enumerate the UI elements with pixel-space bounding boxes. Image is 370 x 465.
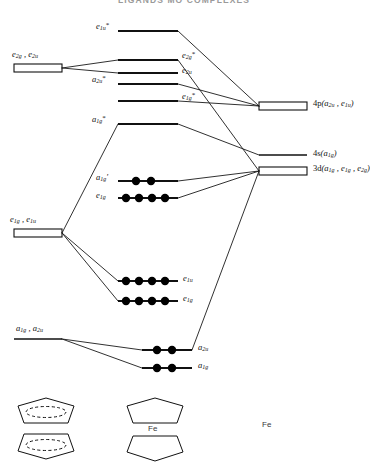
- corr-line-e1g-bond: [62, 233, 118, 301]
- electron-dot: [135, 194, 143, 202]
- label-mo-e2g-star: e2g*: [182, 51, 195, 60]
- corr-line-3d-e2gstar: [178, 60, 259, 171]
- electron-dot: [153, 346, 161, 354]
- label-mo-e1g-star: e1g*: [182, 92, 195, 101]
- electron-dot: [161, 194, 169, 202]
- metal-atomic-orbitals: [259, 102, 307, 175]
- aromatic-circle-bottom: [26, 440, 66, 451]
- label-lgo-a1g-a2u: a1g , a2u: [16, 324, 43, 333]
- lgo-box-e1g-e1u: [14, 229, 62, 237]
- label-ao-3d: 3d(a1g , e1g , e2g): [313, 164, 370, 173]
- corr-line-e1u-bond: [62, 233, 118, 281]
- electron-dot: [147, 177, 155, 185]
- label-mo-a2u-star: a2u*: [92, 75, 106, 84]
- corr-line-4p-e1gstar: [178, 101, 259, 106]
- electron-dots: [122, 177, 176, 372]
- electron-dot: [122, 277, 130, 285]
- aromatic-circle-top: [26, 407, 66, 418]
- label-mo-a1g-prime: a1g′: [96, 173, 108, 182]
- label-mo-a1g-star: a1g*: [92, 115, 106, 124]
- structure-drawings: [18, 398, 183, 461]
- electron-dot: [148, 194, 156, 202]
- electron-dot: [148, 297, 156, 305]
- label-mo-e1u-bonding: e1u: [183, 274, 193, 283]
- corr-line-3d-e1gnb: [178, 171, 259, 198]
- label-mo-e1g-bonding: e1g: [183, 294, 193, 303]
- electron-dot: [135, 277, 143, 285]
- ferrocene-ring-bottom: [127, 436, 183, 461]
- structure-ferrocene-metal-label: Fe: [148, 424, 157, 433]
- corr-line-e2u: [62, 68, 118, 73]
- electron-dot: [132, 177, 140, 185]
- label-ao-4s: 4s(a1g): [313, 149, 337, 158]
- label-lgo-e2g-e2u: e2g , e2u: [12, 50, 38, 59]
- electron-dot: [135, 297, 143, 305]
- electron-dot: [122, 194, 130, 202]
- electron-dot: [148, 277, 156, 285]
- electron-dot: [168, 364, 176, 372]
- label-mo-a2u-bonding: a2u: [198, 343, 208, 352]
- corr-line-e1-to-a1gstar: [62, 124, 118, 233]
- structure-bare-metal-label: Fe: [262, 420, 271, 429]
- corr-line-a2u-bond: [62, 339, 142, 350]
- electron-dot: [122, 297, 130, 305]
- electron-dot: [161, 277, 169, 285]
- corr-line-3d-a1gprime: [178, 171, 259, 181]
- electron-dot: [168, 346, 176, 354]
- ferrocene-ring-top: [127, 398, 183, 423]
- ao-box-4p: [259, 102, 307, 110]
- label-lgo-e1g-e1u: e1g , e1u: [10, 215, 36, 224]
- label-mo-e1g-nonbonding: e1g: [96, 191, 106, 200]
- structure-ligand-rings: [18, 398, 74, 459]
- label-ao-4p: 4p(a2u , e1u): [313, 99, 354, 108]
- corr-line-a1g-bond: [62, 339, 142, 368]
- corr-line-4s-a1gstar: [178, 124, 259, 155]
- corr-line-e2g: [62, 60, 118, 68]
- ligand-group-orbitals: [14, 64, 62, 339]
- ao-box-3d: [259, 167, 307, 175]
- lgo-box-e2g-e2u: [14, 64, 62, 72]
- label-mo-a1g-bonding: a1g: [198, 361, 208, 370]
- electron-dot: [153, 364, 161, 372]
- electron-dot: [161, 297, 169, 305]
- corr-line-3d-lower: [192, 171, 259, 350]
- label-mo-e1u-star: e1u*: [96, 22, 109, 31]
- label-mo-e2u: e2u: [182, 66, 192, 75]
